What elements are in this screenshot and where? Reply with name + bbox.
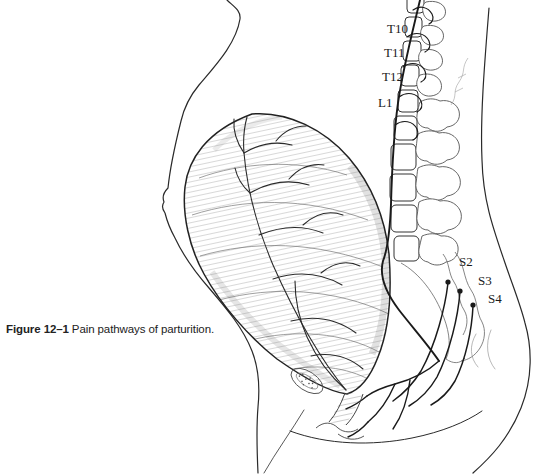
figure-caption-text: Pain pathways of parturition.: [72, 323, 214, 335]
back-outline: [473, 8, 530, 473]
spine-label-t12: T12: [382, 69, 403, 84]
perineum-contours: [316, 423, 364, 439]
figure-caption: Figure 12–1Pain pathways of parturition.: [6, 322, 214, 336]
spine-label-t10: T10: [387, 21, 408, 36]
spine-label-l1: L1: [378, 95, 392, 110]
sacral-nerves: [393, 283, 473, 406]
uterus: [184, 114, 390, 394]
spine-label-t11: T11: [384, 45, 404, 60]
spine-label-s3: S3: [478, 273, 492, 288]
gluteal-fold-line: [290, 411, 482, 443]
birth-canal: [329, 393, 363, 425]
inner-thigh-line: [264, 410, 304, 473]
figure-caption-number: Figure 12–1: [6, 323, 69, 335]
artist-signature: [451, 58, 468, 105]
textbook-figure: T10 T11 T12 L1 S2 S3 S4 Figure 12–1Pain …: [0, 0, 541, 474]
spinous-processes: [416, 1, 462, 265]
spine-label-s4: S4: [488, 291, 502, 306]
spine-label-s2: S2: [459, 254, 473, 269]
coccyx-contours: [471, 330, 495, 369]
anatomical-illustration: T10 T11 T12 L1 S2 S3 S4: [0, 0, 541, 474]
